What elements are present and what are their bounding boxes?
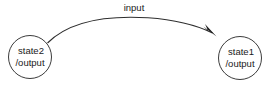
state2-name-label: state2 [18, 45, 44, 56]
state-diagram-canvas: input state2 /output state1 /output [0, 0, 269, 85]
state2-output-label: /output [15, 57, 44, 68]
transition-arc-state2-to-state1[interactable] [48, 17, 213, 43]
transition-label-input: input [124, 2, 145, 13]
state1-name-label: state1 [228, 46, 254, 57]
state-node-state2[interactable]: state2 /output [9, 36, 52, 79]
state-diagram-svg: input state2 /output state1 /output [0, 0, 269, 85]
state-node-state1[interactable]: state1 /output [219, 37, 262, 80]
state1-output-label: /output [225, 58, 254, 69]
